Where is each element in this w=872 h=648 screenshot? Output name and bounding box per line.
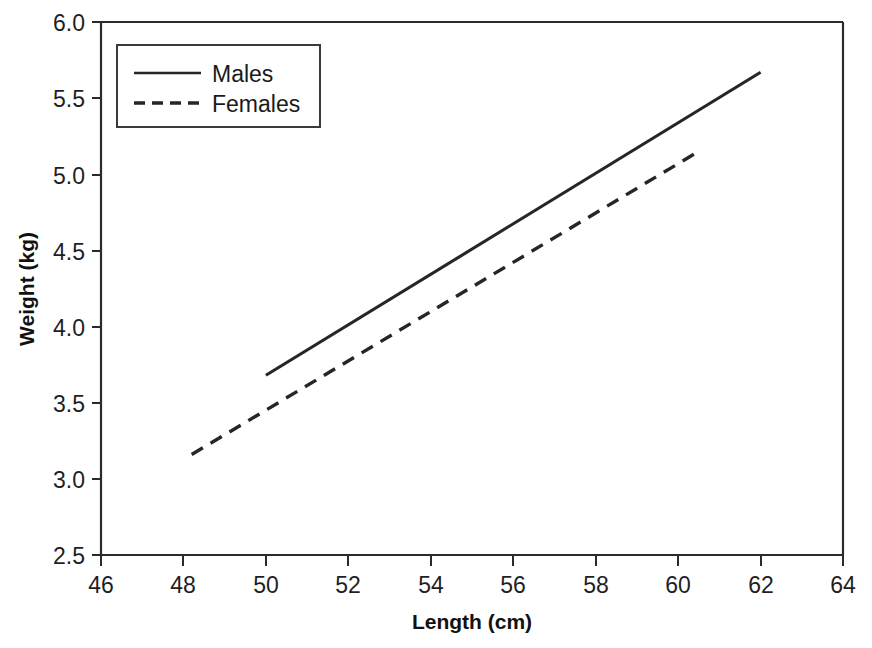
y-tick-label: 5.5 — [53, 86, 85, 112]
y-axis-ticks: 6.0 5.5 5.0 4.5 4.0 3.5 3.0 2.5 — [53, 10, 101, 569]
y-tick-label: 2.5 — [53, 543, 85, 569]
chart-legend: Males Females — [117, 45, 320, 127]
x-tick-label: 62 — [748, 572, 774, 598]
y-tick-label: 4.0 — [53, 315, 85, 341]
x-tick-label: 46 — [88, 572, 114, 598]
legend-label-females: Females — [212, 91, 300, 117]
x-tick-label: 56 — [500, 572, 526, 598]
series-line-females — [192, 151, 699, 454]
x-tick-label: 50 — [253, 572, 279, 598]
x-tick-label: 64 — [830, 572, 856, 598]
x-tick-label: 54 — [418, 572, 444, 598]
y-tick-label: 5.0 — [53, 163, 85, 189]
y-tick-label: 3.0 — [53, 467, 85, 493]
y-tick-label: 4.5 — [53, 239, 85, 265]
y-axis-title: Weight (kg) — [15, 232, 38, 346]
x-axis-ticks: 46 48 50 52 54 56 58 60 62 64 — [88, 555, 856, 598]
x-tick-label: 58 — [583, 572, 609, 598]
legend-label-males: Males — [212, 61, 273, 87]
series-line-males — [266, 72, 761, 375]
x-tick-label: 52 — [335, 572, 361, 598]
y-tick-label: 6.0 — [53, 10, 85, 36]
y-tick-label: 3.5 — [53, 391, 85, 417]
x-tick-label: 48 — [170, 572, 196, 598]
line-chart: 6.0 5.5 5.0 4.5 4.0 3.5 3.0 2.5 46 48 50 — [0, 0, 872, 648]
x-tick-label: 60 — [665, 572, 691, 598]
chart-container: 6.0 5.5 5.0 4.5 4.0 3.5 3.0 2.5 46 48 50 — [0, 0, 872, 648]
x-axis-title: Length (cm) — [412, 610, 532, 633]
data-series-group — [192, 72, 761, 454]
